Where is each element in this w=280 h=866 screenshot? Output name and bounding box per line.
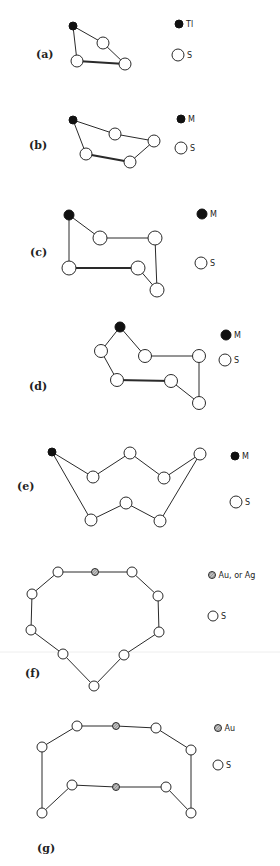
bond-line	[73, 120, 115, 134]
legend-sulfur-atom-icon	[230, 496, 242, 508]
sulfur-atom-icon	[124, 447, 136, 459]
legend-metal-atom-icon	[197, 209, 207, 219]
sulfur-atom-icon	[186, 808, 196, 818]
panel-label: (e)	[17, 480, 34, 493]
sulfur-atom-icon	[131, 261, 145, 275]
legend-label: M	[188, 115, 195, 124]
gold-atom-icon	[113, 784, 120, 791]
legend-sulfur-atom-icon	[175, 142, 187, 154]
sulfur-atom-icon	[89, 681, 99, 691]
bond-line	[94, 655, 124, 686]
legend-label: S	[187, 51, 192, 60]
legend-sulfur-atom-icon	[208, 611, 218, 621]
sulfur-atom-icon	[37, 742, 47, 752]
legend-label: Tl	[185, 20, 193, 29]
gold-atom-icon	[92, 569, 99, 576]
sulfur-atom-icon	[186, 745, 196, 755]
bond-line	[63, 654, 94, 686]
sulfur-atom-icon	[165, 375, 178, 388]
sulfur-atom-icon	[119, 650, 129, 660]
sulfur-atom-icon	[87, 471, 99, 483]
panel-label: (g)	[37, 842, 55, 855]
bond-line	[77, 61, 125, 64]
bond-line	[72, 785, 116, 787]
legend-label: Au, or Ag	[219, 571, 256, 580]
sulfur-atom-icon	[154, 515, 166, 527]
sulfur-atom-icon	[150, 283, 164, 297]
gold-atom-icon	[113, 723, 120, 730]
panel-c: (c)MS	[30, 209, 217, 297]
panel-label: (d)	[29, 380, 47, 393]
sulfur-atom-icon	[193, 397, 206, 410]
sulfur-atom-icon	[27, 589, 37, 599]
sulfur-atom-icon	[139, 350, 152, 363]
sulfur-atom-icon	[148, 231, 162, 245]
sulfur-atom-icon	[71, 55, 83, 67]
sulfur-atom-icon	[161, 782, 171, 792]
legend-gold-atom-icon	[215, 725, 222, 732]
sulfur-atom-icon	[26, 625, 36, 635]
sulfur-atom-icon	[127, 567, 137, 577]
legend-metal-atom-icon	[175, 20, 183, 28]
panels-group: (a)TlS(b)MS(c)MS(d)MS(e)MS(f)Au, or AgS(…	[17, 20, 255, 855]
metal-atom-icon	[69, 22, 77, 30]
panel-d: (d)MS	[29, 322, 241, 410]
molecular-structures-diagram: (a)TlS(b)MS(c)MS(d)MS(e)MS(f)Au, or AgS(…	[0, 0, 280, 866]
sulfur-atom-icon	[95, 345, 108, 358]
legend-label: Au	[225, 724, 236, 733]
sulfur-atom-icon	[85, 514, 97, 526]
panel-b: (b)MS	[29, 115, 195, 168]
legend-label: M	[242, 452, 249, 461]
legend-sulfur-atom-icon	[172, 49, 184, 61]
sulfur-atom-icon	[124, 156, 136, 168]
sulfur-atom-icon	[53, 567, 63, 577]
panel-label: (a)	[36, 48, 54, 61]
panel-label: (f)	[25, 667, 40, 680]
panel-e: (e)MS	[17, 447, 250, 527]
legend-label: S	[210, 259, 215, 268]
sulfur-atom-icon	[72, 721, 82, 731]
bond-line	[117, 380, 171, 381]
bond-line	[52, 452, 93, 477]
sulfur-atom-icon	[153, 591, 163, 601]
sulfur-atom-icon	[154, 627, 164, 637]
bond-line	[160, 454, 200, 521]
bond-line	[42, 785, 72, 813]
sulfur-atom-icon	[109, 128, 121, 140]
legend-label: S	[245, 498, 250, 507]
legend-label: S	[190, 144, 195, 153]
sulfur-atom-icon	[58, 649, 68, 659]
sulfur-atom-icon	[193, 350, 206, 363]
bond-line	[52, 452, 91, 520]
bond-line	[156, 728, 191, 750]
sulfur-atom-icon	[37, 808, 47, 818]
sulfur-atom-icon	[120, 497, 132, 509]
panel-label: (c)	[30, 246, 47, 259]
legend-label: M	[234, 331, 241, 340]
sulfur-atom-icon	[194, 448, 206, 460]
legend-metal-atom-icon	[221, 330, 231, 340]
sulfur-atom-icon	[97, 37, 109, 49]
sulfur-atom-icon	[148, 135, 160, 147]
panel-g: (g)AuS	[37, 721, 235, 855]
metal-atom-icon	[115, 322, 125, 332]
panel-label: (b)	[29, 139, 47, 152]
bond-line	[93, 453, 130, 477]
panel-f: (f)Au, or AgS	[25, 567, 255, 691]
sulfur-atom-icon	[80, 148, 92, 160]
legend-label: S	[226, 761, 231, 770]
sulfur-atom-icon	[158, 472, 170, 484]
legend-metal-atom-icon	[231, 452, 239, 460]
metal-atom-icon	[69, 116, 77, 124]
metal-atom-icon	[64, 210, 74, 220]
legend-label: M	[210, 210, 217, 219]
bond-line	[155, 238, 157, 290]
bond-line	[86, 154, 130, 162]
legend-sulfur-atom-icon	[195, 257, 207, 269]
legend-metal-atom-icon	[177, 115, 185, 123]
sulfur-atom-icon	[119, 58, 131, 70]
sulfur-atom-icon	[111, 374, 124, 387]
sulfur-atom-icon	[93, 231, 107, 245]
legend-sulfur-atom-icon	[219, 354, 231, 366]
panel-a: (a)TlS	[36, 20, 193, 70]
